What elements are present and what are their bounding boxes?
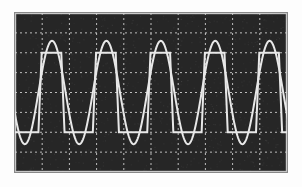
scope-screen-surface	[15, 13, 287, 172]
oscilloscope-screen	[15, 13, 287, 172]
waveform-traces	[15, 13, 287, 172]
